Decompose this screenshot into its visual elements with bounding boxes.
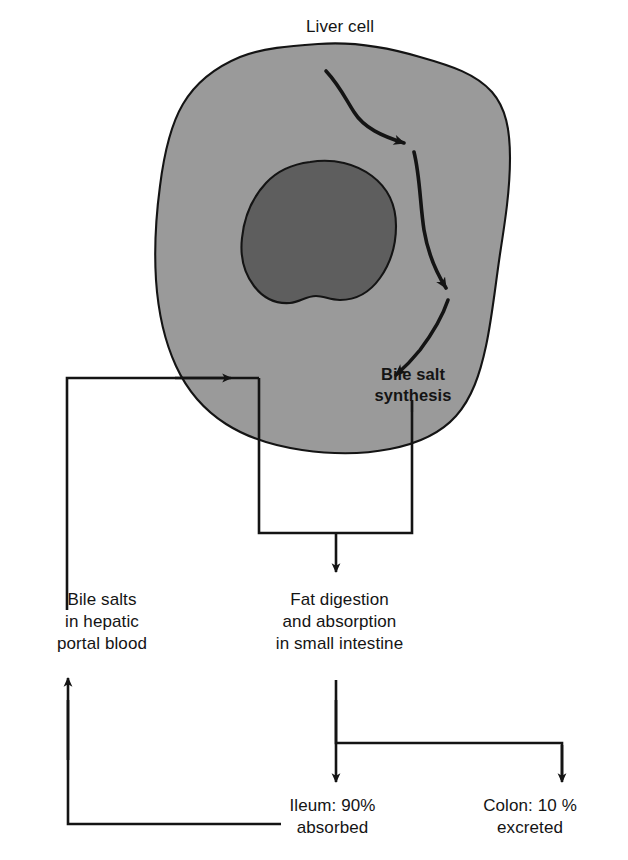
label-colon-excreted: Colon: 10 % excreted [440,795,620,839]
label-bile-salts-hepatic-portal-blood: Bile salts in hepatic portal blood [2,589,202,655]
label-fat-digestion-absorption: Fat digestion and absorption in small in… [232,589,447,655]
label-ileum-absorbed: Ileum: 90% absorbed [240,795,425,839]
figure-canvas: Liver cell Bile salt synthesis Bile salt… [0,0,628,860]
intestine-split-path [336,680,562,782]
diagram-graphics [0,0,628,860]
label-liver-cell: Liver cell [240,16,440,38]
label-bile-salt-synthesis: Bile salt synthesis [338,364,488,406]
